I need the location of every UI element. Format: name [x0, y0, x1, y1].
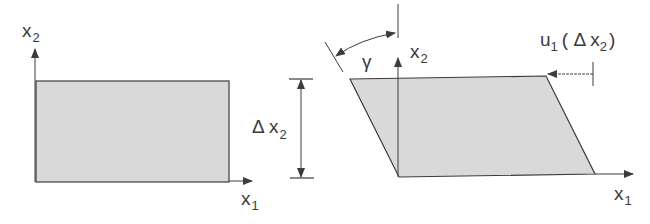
x2-label-right: x2	[410, 41, 428, 66]
gamma-label: γ	[362, 51, 372, 72]
shear-strain-diagram: x2 x1 Δ x2 γ x2 x1 u1( Δ x2)	[0, 0, 650, 224]
displacement-label: u1( Δ x2)	[540, 29, 615, 54]
x1-label-right: x1	[614, 183, 632, 208]
undeformed-element: x2 x1	[22, 20, 259, 213]
slanted-reference-line	[325, 42, 343, 72]
x1-label-left: x1	[241, 188, 259, 213]
undeformed-rectangle	[36, 81, 229, 182]
height-dimension: Δ x2	[252, 79, 314, 178]
delta-x2-label: Δ x2	[252, 116, 287, 142]
x2-label-left: x2	[22, 20, 40, 45]
sheared-element: γ x2 x1 u1( Δ x2)	[325, 4, 633, 208]
sheared-parallelogram	[350, 76, 595, 177]
